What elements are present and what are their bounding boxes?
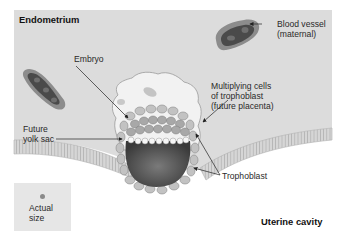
uterine-cavity-label: Uterine cavity [261, 217, 323, 227]
embryo-label: Embryo [74, 54, 104, 64]
trophoblast-label: Trophoblast [222, 171, 267, 181]
actual-size-label: Actual size [29, 203, 53, 223]
actual-size-inset: Actual size [14, 183, 71, 231]
endometrium-label: Endometrium [19, 15, 79, 25]
blood-vessel-label: Blood vessel (maternal) [277, 19, 326, 39]
yolk-sac-cells [128, 137, 189, 144]
yolk-sac-label: Future yolk sac [23, 124, 54, 144]
actual-size-dot-icon [40, 194, 45, 199]
trophoblast-cells-label: Multiplying cells of trophoblast (future… [211, 81, 274, 111]
